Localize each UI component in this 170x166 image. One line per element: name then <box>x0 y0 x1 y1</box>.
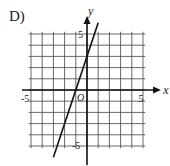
x-axis-arrow-icon <box>153 87 161 94</box>
y-tick-label: 5 <box>78 29 83 40</box>
origin-label: O <box>77 92 84 103</box>
coordinate-plane: xy-555-5O <box>0 0 170 166</box>
x-tick-label: 5 <box>139 93 144 104</box>
x-axis-label: x <box>162 83 169 97</box>
y-axis-label: y <box>87 4 94 18</box>
y-tick-label: -5 <box>72 140 80 151</box>
x-tick-label: -5 <box>21 93 29 104</box>
